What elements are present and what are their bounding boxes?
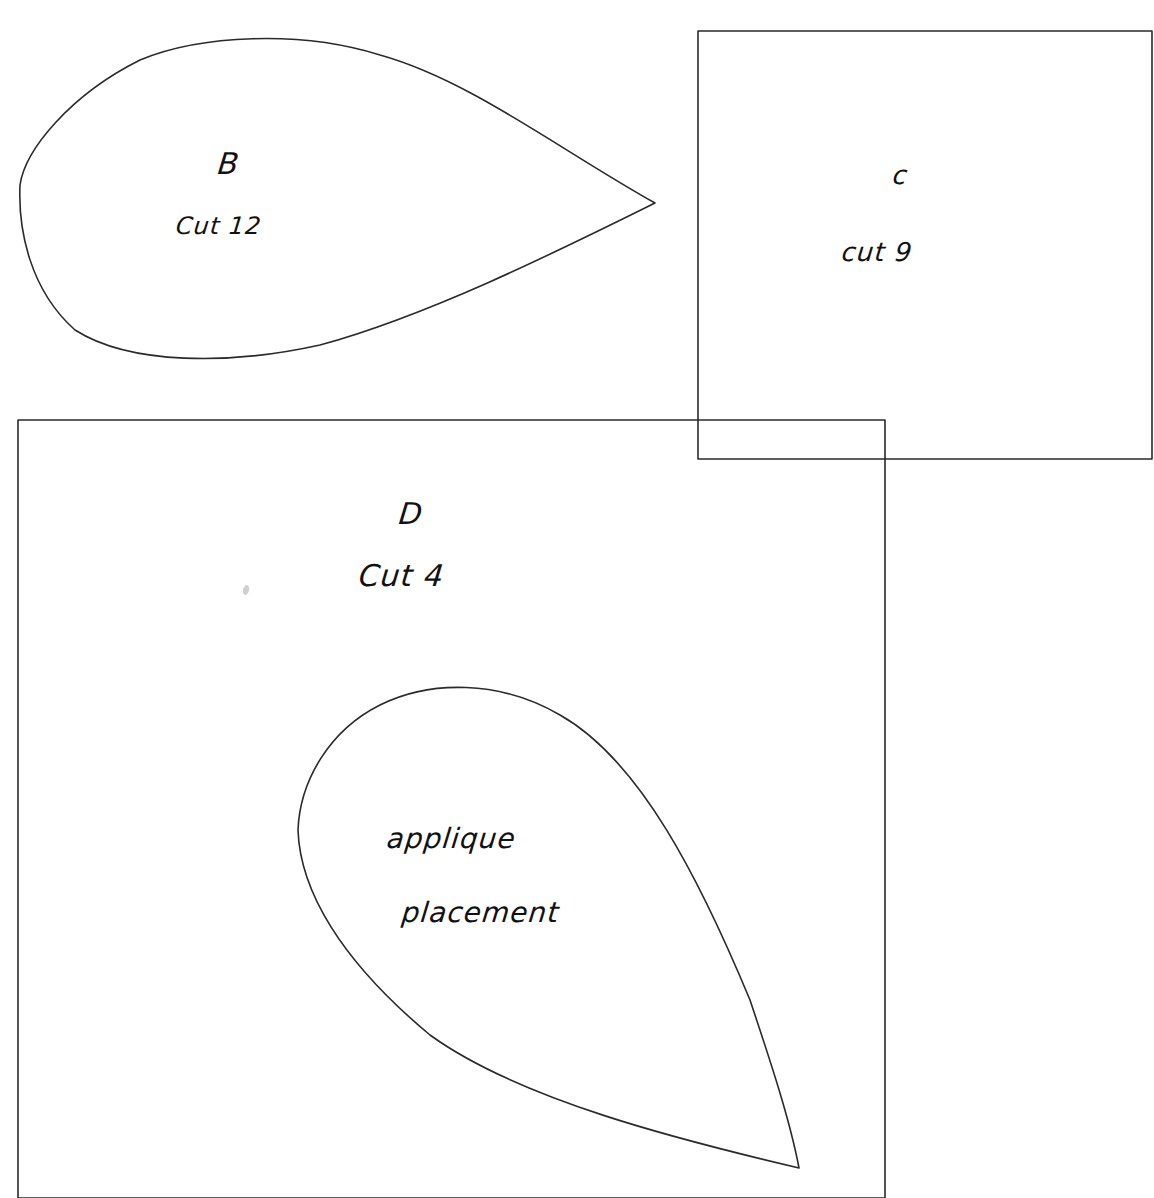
placement-label-line2: placement xyxy=(400,896,561,929)
piece-c-letter: c xyxy=(891,160,909,190)
piece-b-letter: B xyxy=(216,146,241,181)
piece-c-cut-count: cut 9 xyxy=(840,237,914,267)
piece-b-teardrop-outline xyxy=(20,39,655,359)
pattern-canvas xyxy=(0,0,1154,1198)
piece-c-square-outline xyxy=(698,31,1152,459)
piece-d-cut-count: Cut 4 xyxy=(357,558,446,593)
piece-d-square-outline xyxy=(18,420,885,1198)
piece-b-cut-count: Cut 12 xyxy=(175,212,263,240)
piece-d-letter: D xyxy=(397,496,425,531)
placement-label-line1: applique xyxy=(385,822,517,855)
